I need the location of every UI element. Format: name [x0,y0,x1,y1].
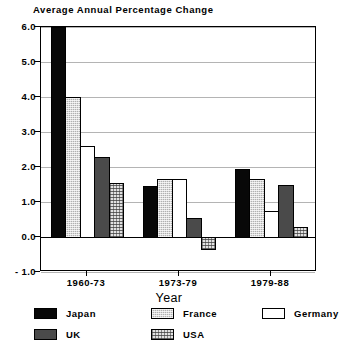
x-tick-label: 1960-73 [67,277,105,288]
legend-swatch [34,308,57,319]
y-tick-mark [34,236,40,237]
x-tick-label: 1979-88 [251,277,289,288]
legend-item: Japan [34,308,96,319]
gridline [41,97,315,98]
legend-swatch [262,308,285,319]
gridline [41,132,315,133]
y-tick-mark [34,271,40,272]
y-tick-mark [34,201,40,202]
x-tick-label: 1973-79 [159,277,197,288]
bar [172,179,188,238]
gridline [41,62,315,63]
bar [249,179,265,238]
y-tick-label: - 1.0 [15,266,36,277]
y-tick-mark [34,26,40,27]
bar [157,179,173,238]
legend-label: France [183,308,217,319]
x-axis-title: Year [0,291,338,305]
bar [80,146,96,238]
y-tick-mark [34,166,40,167]
legend-item: USA [151,329,205,340]
bar [235,169,251,238]
legend-item: Germany [262,308,339,319]
gridline [41,27,315,28]
bar [264,211,280,238]
x-tick-mark [178,271,179,276]
chart-legend: JapanFranceGermanyUKUSA [34,308,324,350]
bar [109,183,125,238]
y-tick-mark [34,96,40,97]
bar [51,27,67,238]
plot-area [40,26,316,271]
legend-label: UK [66,329,81,340]
bar [186,218,202,238]
x-tick-mark [270,271,271,276]
x-tick-mark [86,271,87,276]
legend-label: Germany [294,308,339,319]
plot-inner [41,27,315,270]
bar [65,97,81,238]
bar [293,227,309,239]
legend-swatch [151,329,174,340]
bar [278,185,294,239]
legend-label: USA [183,329,205,340]
chart-title: Average Annual Percentage Change [33,4,214,15]
legend-swatch [151,308,174,319]
bar [143,186,159,238]
y-tick-mark [34,131,40,132]
legend-item: UK [34,329,81,340]
legend-item: France [151,308,217,319]
y-tick-mark [34,61,40,62]
bar [201,237,217,250]
legend-label: Japan [66,308,96,319]
bar [94,157,110,239]
legend-swatch [34,329,57,340]
